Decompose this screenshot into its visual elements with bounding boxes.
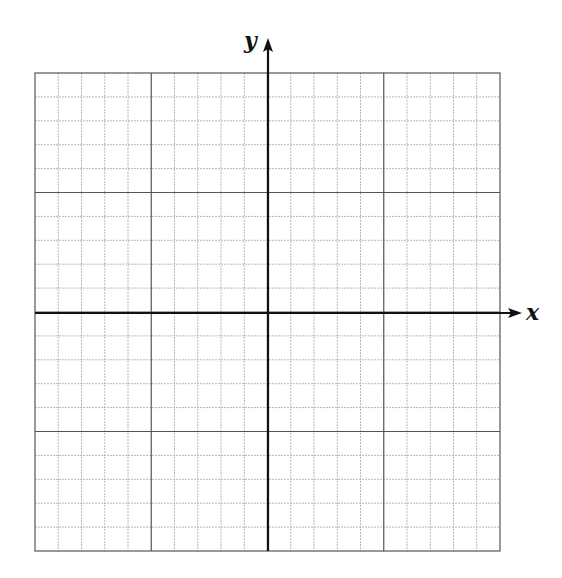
x-axis-label: x: [525, 299, 540, 325]
coordinate-plane: x y: [0, 0, 562, 578]
y-axis-label: y: [243, 27, 259, 53]
